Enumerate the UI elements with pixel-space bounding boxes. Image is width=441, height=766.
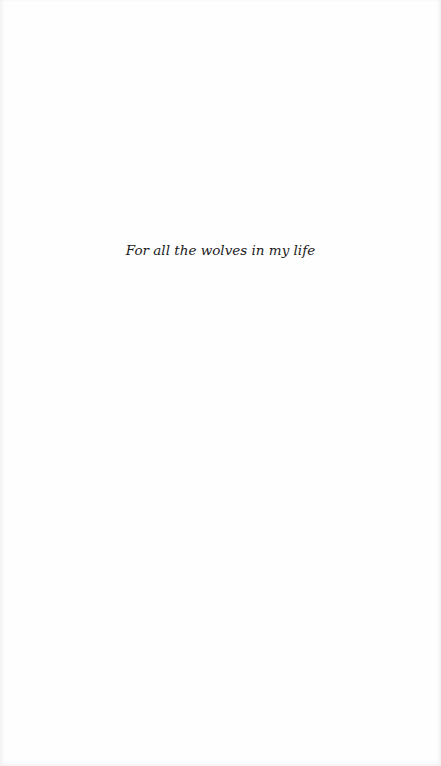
dedication-page: For all the wolves in my life — [0, 0, 441, 766]
dedication-text: For all the wolves in my life — [0, 241, 441, 259]
